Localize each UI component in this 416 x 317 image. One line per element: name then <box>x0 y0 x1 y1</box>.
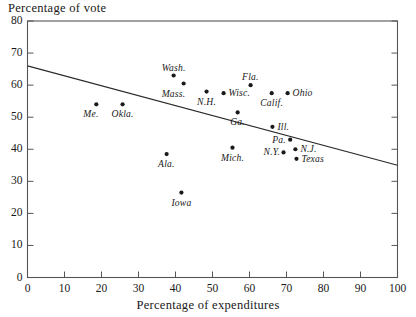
point-label: Wash. <box>162 62 186 73</box>
y-tick-label: 60 <box>1 78 23 90</box>
scatter-plot-figure: Percentage of vote 01020304050607080 010… <box>0 0 416 317</box>
point-label: Iowa <box>171 197 191 208</box>
y-tick-label: 80 <box>1 14 23 26</box>
point-label: Wisc. <box>229 87 251 98</box>
point-label: Calif. <box>260 97 283 108</box>
y-tick-label: 20 <box>1 206 23 218</box>
point-label: Ill. <box>277 121 289 132</box>
x-tick-label: 50 <box>200 282 226 294</box>
point-label: Me. <box>83 108 98 119</box>
axis-ticks <box>28 21 398 278</box>
x-tick-label: 90 <box>348 282 374 294</box>
y-tick-label: 30 <box>1 174 23 186</box>
x-tick-label: 20 <box>89 282 115 294</box>
y-tick-label: 10 <box>1 238 23 250</box>
point-label: N.Y. <box>264 146 280 157</box>
plot-canvas <box>0 0 416 317</box>
x-axis-title: Percentage of expenditures <box>0 298 416 313</box>
y-tick-label: 40 <box>1 142 23 154</box>
point-label: N.H. <box>197 96 216 107</box>
x-tick-label: 80 <box>311 282 337 294</box>
point-label: Texas <box>301 153 324 164</box>
point-label: Fla. <box>242 71 259 82</box>
point-label: Ohio <box>293 87 313 98</box>
y-tick-label: 70 <box>1 46 23 58</box>
plot-frame <box>28 21 398 278</box>
x-tick-label: 0 <box>15 282 41 294</box>
point-label: Ala. <box>158 158 175 169</box>
x-tick-label: 100 <box>385 282 411 294</box>
point-label: Mich. <box>221 152 244 163</box>
point-label: Mass. <box>162 88 186 99</box>
point-label: Okla. <box>112 108 134 119</box>
point-label: Pa. <box>272 134 286 145</box>
x-tick-label: 10 <box>52 282 78 294</box>
point-label: Ga. <box>230 116 245 127</box>
x-tick-label: 60 <box>237 282 263 294</box>
x-tick-label: 30 <box>126 282 152 294</box>
x-tick-label: 40 <box>163 282 189 294</box>
x-tick-label: 70 <box>274 282 300 294</box>
y-tick-label: 50 <box>1 110 23 122</box>
